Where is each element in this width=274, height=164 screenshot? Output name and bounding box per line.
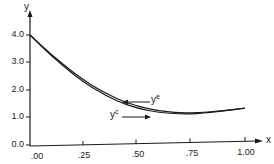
y-tick-label-2: 2.0	[0, 85, 24, 94]
x-tick-label-3: .75	[178, 149, 206, 158]
y-tick-label-4: 4.0	[0, 30, 24, 39]
annotation-yc-label: yc	[110, 110, 119, 120]
x-axis	[30, 141, 258, 146]
y-axis-label: y	[24, 2, 29, 12]
x-axis-arrow-icon	[255, 139, 263, 144]
line-chart	[0, 0, 274, 164]
x-axis-label: x	[266, 135, 271, 145]
annotation-yc-arrow-icon	[145, 115, 151, 120]
x-tick-label-1: .25	[70, 151, 98, 160]
x-tick-label-0: .00	[23, 152, 51, 161]
y-tick-label-3: 3.0	[0, 57, 24, 66]
x-tick-label-4: 1.00	[232, 148, 260, 157]
y-tick-label-0: 0.0	[0, 140, 24, 149]
series-y-e-line	[30, 35, 245, 113]
y-tick-label-1: 1.0	[0, 112, 24, 121]
x-tick-label-2: .50	[124, 150, 152, 159]
annotation-ye-label: ye	[151, 95, 160, 105]
